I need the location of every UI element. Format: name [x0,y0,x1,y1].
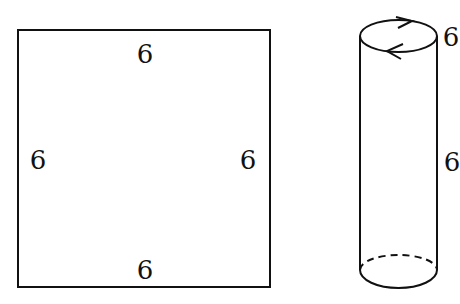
square-label-right: 6 [240,147,257,173]
cylinder-bottom-back-dashed [360,255,437,270]
cylinder-label-side: 6 [444,149,460,175]
cylinder-top-ellipse [360,20,437,52]
cylinder-label-top: 6 [443,24,460,50]
cylinder-bottom-front [360,270,437,288]
square-label-left: 6 [30,147,47,173]
square-label-bottom: 6 [137,257,154,283]
square-label-top: 6 [137,41,154,67]
arrow-right-icon [396,17,412,28]
